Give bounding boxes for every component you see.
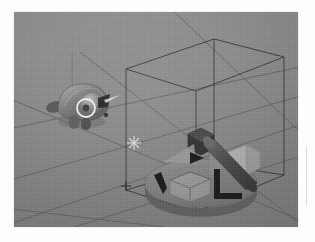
3d-cursor[interactable] [14, 12, 298, 227]
screenshot-page [0, 0, 315, 242]
3d-cursor-crosshair[interactable] [127, 136, 141, 150]
right-separator-rule [306, 146, 307, 206]
origin-marker[interactable] [121, 181, 131, 191]
viewport-3d[interactable] [14, 12, 298, 227]
